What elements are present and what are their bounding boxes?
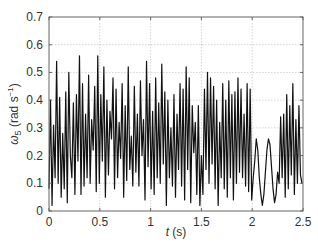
y-tick-label: 0.1 [26,176,43,190]
x-tick-label: 1 [147,215,154,229]
x-tick-label: 1.5 [193,215,210,229]
y-axis-unit-prefix: (rad s [7,96,21,130]
y-tick-label: 0.7 [26,10,43,24]
y-axis-unit-suffix: ) [7,83,21,87]
y-tick-label: 0.2 [26,149,43,163]
x-tick-label: 2.5 [295,215,312,229]
x-tick-label: 0.5 [91,215,108,229]
y-tick-labels: 00.10.20.30.40.50.60.7 [26,10,43,218]
x-axis-label: t (s) [166,225,187,239]
y-axis-label: ω5 (rad s−1) [6,83,23,145]
omega5-line [49,56,302,206]
x-axis-unit: (s) [169,225,186,239]
y-tick-label: 0.4 [26,93,43,107]
y-tick-label: 0.6 [26,38,43,52]
y-tick-label: 0 [36,204,43,218]
chart: 00.10.20.30.40.50.60.7 00.511.522.5 t (s… [0,0,318,249]
data-series [49,56,302,206]
y-tick-label: 0.5 [26,65,43,79]
y-tick-label: 0.3 [26,121,43,135]
x-tick-label: 0 [46,215,53,229]
y-axis-symbol: ω [7,135,21,144]
x-tick-label: 2 [249,215,256,229]
